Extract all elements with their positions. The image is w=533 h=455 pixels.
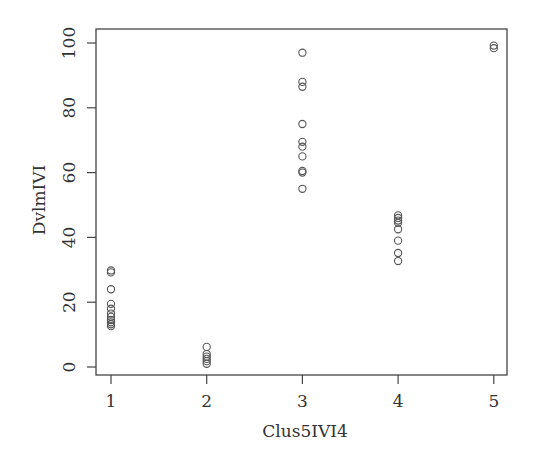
x-axis-label: Clus5IVI4 xyxy=(262,421,347,441)
data-point xyxy=(299,185,306,192)
data-point xyxy=(299,49,306,56)
y-tick-label: 80 xyxy=(59,97,79,119)
x-axis: 12345 xyxy=(106,375,500,411)
x-tick-label: 3 xyxy=(297,391,308,411)
x-tick-label: 1 xyxy=(106,391,117,411)
data-points xyxy=(107,42,497,367)
y-axis-label: DvlmIVI xyxy=(29,165,49,236)
data-point xyxy=(299,83,306,90)
data-point xyxy=(395,249,402,256)
data-point xyxy=(107,286,114,293)
x-tick-label: 5 xyxy=(488,391,499,411)
x-tick-label: 4 xyxy=(393,391,404,411)
plot-frame xyxy=(96,29,507,375)
y-tick-label: 0 xyxy=(59,362,79,373)
y-tick-label: 20 xyxy=(59,291,79,313)
y-tick-label: 40 xyxy=(59,227,79,249)
y-axis: 020406080100 xyxy=(59,27,96,373)
data-point xyxy=(299,153,306,160)
data-point xyxy=(203,343,210,350)
x-tick-label: 2 xyxy=(201,391,212,411)
data-point xyxy=(395,237,402,244)
y-tick-label: 100 xyxy=(59,27,79,59)
data-point xyxy=(299,120,306,127)
data-point xyxy=(299,143,306,150)
y-tick-label: 60 xyxy=(59,162,79,184)
data-point xyxy=(395,257,402,264)
scatter-chart: 020406080100 12345 Clus5IVI4 DvlmIVI xyxy=(0,0,533,455)
